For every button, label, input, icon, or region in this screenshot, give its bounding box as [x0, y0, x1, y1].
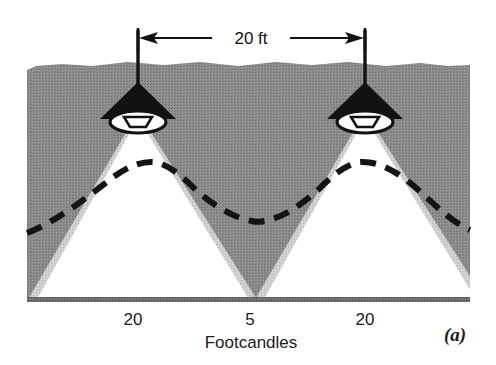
- dimension-label: 20 ft: [234, 29, 267, 48]
- left-lamp-filament-icon: [124, 117, 152, 127]
- illumination-diagram: 20 ft 20 5 20 Footcandles (a): [0, 0, 496, 365]
- panel-label: (a): [444, 324, 466, 346]
- reading-middle: 5: [245, 310, 254, 329]
- dimension-20ft: 20 ft: [138, 28, 365, 52]
- reading-right: 20: [356, 310, 375, 329]
- axis-title-footcandles: Footcandles: [205, 333, 298, 352]
- figure-container: 20 ft 20 5 20 Footcandles (a): [0, 0, 496, 365]
- reading-left: 20: [124, 310, 143, 329]
- right-lamp-filament-icon: [351, 117, 379, 127]
- floor-line: [27, 297, 470, 302]
- floor-readings: 20 5 20: [124, 310, 375, 329]
